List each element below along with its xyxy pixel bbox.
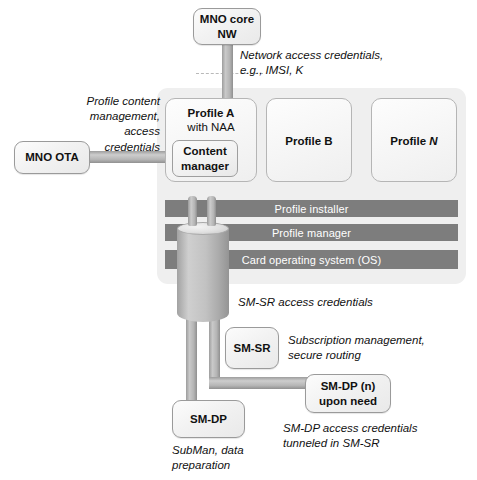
profile-box-b[interactable]: Profile B [266,98,352,182]
profile-a-subtitle: with NAA [166,120,256,134]
profile-n-title: Profile [390,135,429,147]
cylinder-body [177,228,229,322]
content-manager-label: Content manager [181,144,229,172]
content-manager-box[interactable]: Content manager [172,140,238,177]
profile-box-n[interactable]: Profile N [371,98,457,182]
mno-core-line2: NW [217,28,236,40]
note-sm-sr-access-credentials: SM-SR access credentials [238,295,428,310]
diagram-canvas: Profile installer Profile manager Card o… [0,0,477,480]
note-sm-dp-access-credentials: SM-DP access credentials tunneled in SM-… [283,421,451,451]
note-profile-content-management: Profile content management, access crede… [72,94,160,155]
sm-dp-label: SM-DP [190,412,227,426]
sm-sr-label: SM-SR [233,341,270,355]
layer-label: Profile manager [272,227,351,239]
connector-to-smdp-n [209,377,317,389]
sm-dp-n-line1: SM-DP (n) [321,380,376,392]
node-sm-dp[interactable]: SM-DP [172,400,245,438]
layer-label: Profile installer [275,203,349,215]
node-sm-sr[interactable]: SM-SR [225,327,279,369]
profile-a-title: Profile A [188,107,235,119]
cylinder-pin-left [188,196,197,226]
node-mno-core-nw[interactable]: MNO core NW [193,8,261,45]
node-sm-dp-n[interactable]: SM-DP (n) upon need [305,374,391,413]
sm-dp-n-line2: upon need [319,395,377,407]
note-network-access-credentials: Network access credentials, e.g., IMSI, … [240,48,400,78]
note-subman-data-preparation: SubMan, data preparation [172,443,268,473]
cylinder-top-ellipse [177,222,229,235]
mno-ota-label: MNO OTA [25,150,78,164]
mno-core-line1: MNO core [200,13,254,25]
profile-n-index: N [429,135,437,147]
profile-b-title: Profile B [285,135,332,147]
note-subscription-management: Subscription management, secure routing [288,333,438,363]
layer-label: Card operating system (OS) [242,254,382,266]
connector-cylinder-to-smdp [186,310,197,410]
sim-cylinder [177,222,229,322]
cylinder-pin-right [207,196,216,226]
